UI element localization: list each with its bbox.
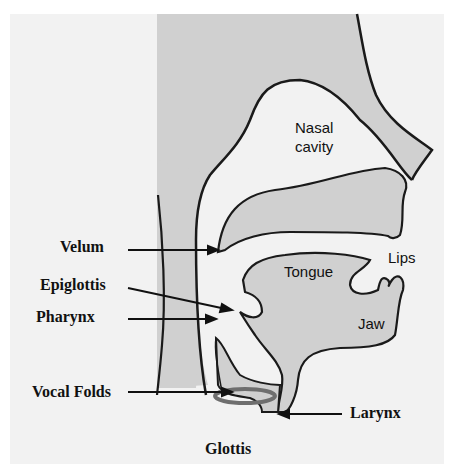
label-tongue: Tongue bbox=[284, 262, 333, 281]
hard-palate bbox=[218, 168, 406, 252]
label-nasal-line2: cavity bbox=[295, 137, 333, 156]
label-larynx: Larynx bbox=[350, 404, 401, 422]
label-epiglottis: Epiglottis bbox=[40, 276, 106, 294]
label-jaw: Jaw bbox=[358, 314, 385, 333]
label-glottis: Glottis bbox=[205, 440, 251, 458]
label-nasal-cavity: Nasal cavity bbox=[295, 118, 333, 156]
label-vocal-folds: Vocal Folds bbox=[32, 383, 111, 401]
label-velum: Velum bbox=[60, 238, 104, 256]
label-nasal-line1: Nasal bbox=[295, 118, 333, 137]
label-pharynx: Pharynx bbox=[36, 308, 95, 326]
label-lips: Lips bbox=[388, 248, 416, 267]
